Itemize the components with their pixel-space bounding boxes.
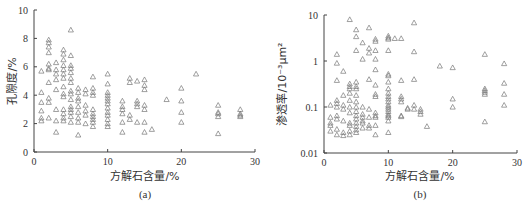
y-tick-label: 10	[18, 5, 28, 16]
x-tick-label: 0	[32, 156, 37, 167]
triangle-marker-icon	[450, 65, 455, 70]
triangle-marker-icon	[360, 40, 365, 45]
triangle-marker-icon	[502, 92, 507, 97]
triangle-marker-icon	[373, 48, 378, 53]
y-tick-label: 4	[23, 90, 28, 101]
triangle-marker-icon	[54, 77, 59, 82]
x-tick-label: 0	[322, 157, 327, 168]
triangle-marker-icon	[105, 71, 110, 76]
chart-b-y-label: 渗透率/10⁻³μm²	[275, 42, 289, 125]
triangle-marker-icon	[193, 71, 198, 76]
triangle-marker-icon	[366, 77, 371, 82]
triangle-marker-icon	[39, 68, 44, 73]
triangle-marker-icon	[502, 81, 507, 86]
triangle-marker-icon	[366, 107, 371, 112]
triangle-marker-icon	[399, 78, 404, 83]
triangle-marker-icon	[373, 123, 378, 128]
triangle-marker-icon	[502, 102, 507, 107]
y-tick-label: 2	[23, 118, 28, 129]
triangle-marker-icon	[120, 130, 125, 135]
triangle-marker-icon	[386, 79, 391, 84]
chart-b-caption: (b)	[414, 188, 427, 201]
x-tick-label: 10	[103, 156, 113, 167]
chart-a: 0246810 0102030 孔隙度/% 方解石含量/% (a)	[5, 5, 260, 202]
triangle-marker-icon	[54, 87, 59, 92]
triangle-marker-icon	[76, 132, 81, 137]
triangle-marker-icon	[411, 20, 416, 25]
triangle-marker-icon	[373, 56, 378, 61]
triangle-marker-icon	[502, 61, 507, 66]
triangle-marker-icon	[347, 104, 352, 109]
triangle-marker-icon	[386, 91, 391, 96]
chart-a-y-label: 孔隙度/%	[5, 57, 19, 104]
chart-a-x-label: 方解石含量/%	[110, 169, 179, 183]
triangle-marker-icon	[135, 120, 140, 125]
triangle-marker-icon	[54, 107, 59, 112]
triangle-marker-icon	[61, 57, 66, 62]
triangle-marker-icon	[54, 130, 59, 135]
figure: 0246810 0102030 孔隙度/% 方解石含量/% (a) 0.010.…	[0, 0, 529, 205]
triangle-marker-icon	[366, 25, 371, 30]
x-tick-label: 10	[383, 157, 393, 168]
x-tick-label: 30	[250, 156, 260, 167]
triangle-marker-icon	[366, 115, 371, 120]
triangle-marker-icon	[347, 17, 352, 22]
triangle-marker-icon	[354, 34, 359, 39]
chart-b-axes	[324, 15, 517, 153]
triangle-marker-icon	[39, 90, 44, 95]
triangle-marker-icon	[334, 116, 339, 121]
triangle-marker-icon	[120, 120, 125, 125]
triangle-marker-icon	[68, 27, 73, 32]
triangle-marker-icon	[399, 36, 404, 41]
triangle-marker-icon	[450, 104, 455, 109]
chart-b-points	[328, 17, 507, 138]
triangle-marker-icon	[105, 81, 110, 86]
triangle-marker-icon	[135, 78, 140, 83]
y-tick-label: 0.01	[301, 148, 319, 159]
triangle-marker-icon	[424, 124, 429, 129]
triangle-marker-icon	[216, 131, 221, 136]
triangle-marker-icon	[360, 112, 365, 117]
triangle-marker-icon	[354, 48, 359, 53]
y-tick-label: 8	[23, 33, 28, 44]
triangle-marker-icon	[354, 93, 359, 98]
triangle-marker-icon	[46, 80, 51, 85]
triangle-marker-icon	[83, 103, 88, 108]
triangle-marker-icon	[216, 103, 221, 108]
triangle-marker-icon	[341, 130, 346, 135]
triangle-marker-icon	[179, 110, 184, 115]
triangle-marker-icon	[354, 27, 359, 32]
triangle-marker-icon	[334, 52, 339, 57]
triangle-marker-icon	[61, 84, 66, 89]
triangle-marker-icon	[142, 77, 147, 82]
triangle-marker-icon	[46, 50, 51, 55]
triangle-marker-icon	[354, 99, 359, 104]
triangle-marker-icon	[149, 127, 154, 132]
y-tick-label: 0.1	[306, 102, 319, 113]
triangle-marker-icon	[347, 98, 352, 103]
triangle-marker-icon	[334, 78, 339, 83]
triangle-marker-icon	[39, 100, 44, 105]
triangle-marker-icon	[334, 98, 339, 103]
triangle-marker-icon	[76, 110, 81, 115]
triangle-marker-icon	[360, 125, 365, 130]
x-tick-label: 20	[176, 156, 186, 167]
triangle-marker-icon	[373, 132, 378, 137]
triangle-marker-icon	[386, 48, 391, 53]
chart-b-y-ticks: 0.010.1110	[301, 10, 328, 159]
triangle-marker-icon	[437, 63, 442, 68]
triangle-marker-icon	[83, 121, 88, 126]
triangle-marker-icon	[366, 46, 371, 51]
triangle-marker-icon	[76, 104, 81, 109]
chart-a-axes	[34, 10, 255, 152]
triangle-marker-icon	[68, 97, 73, 102]
triangle-marker-icon	[482, 119, 487, 124]
triangle-marker-icon	[164, 97, 169, 102]
y-tick-label: 10	[308, 10, 318, 21]
triangle-marker-icon	[360, 56, 365, 61]
triangle-marker-icon	[411, 49, 416, 54]
triangle-marker-icon	[341, 118, 346, 123]
triangle-marker-icon	[341, 93, 346, 98]
triangle-marker-icon	[366, 50, 371, 55]
triangle-marker-icon	[373, 67, 378, 72]
